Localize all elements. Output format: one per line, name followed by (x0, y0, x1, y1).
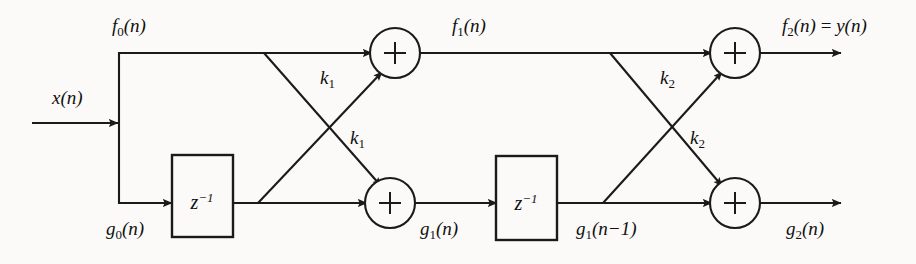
f1-arg: (n) (464, 15, 486, 37)
g2-arg: (n) (802, 218, 824, 240)
g0-arg: (n) (122, 218, 144, 240)
g1d-arg: (n−1) (592, 218, 636, 240)
f2-equals: = (816, 15, 836, 36)
g2-base: g (786, 218, 796, 239)
label-f2-output: f2(n) = y(n) (782, 15, 867, 39)
label-g2: g2(n) (786, 218, 824, 242)
f0-arg: (n) (124, 15, 146, 37)
label-f1: f1(n) (452, 15, 486, 39)
label-g1: g1(n) (420, 218, 458, 242)
delay1-base: z (189, 191, 198, 213)
g1d-base: g (576, 218, 586, 239)
delay2-exponent: −1 (522, 191, 537, 206)
signal-flow-svg: z−1 z−1 x(n) (0, 0, 916, 264)
adder-g1 (365, 178, 415, 228)
adder-g2 (710, 178, 760, 228)
f2-alias-arg: (n) (845, 15, 867, 37)
delay1-exponent: −1 (198, 190, 213, 205)
label-g0: g0(n) (106, 218, 144, 242)
label-k2-upper: k2 (660, 67, 675, 91)
label-k2-lower: k2 (690, 127, 705, 151)
adder-f1 (370, 28, 420, 78)
label-input-x: x(n) (51, 87, 83, 109)
adder-f2 (710, 28, 760, 78)
f2-arg: (n) (794, 15, 816, 37)
g1-base: g (420, 218, 430, 239)
k1u-sub: 1 (328, 76, 335, 91)
input-arg: (n) (60, 87, 82, 109)
label-k1-lower: k1 (350, 127, 365, 151)
delay2-base: z (513, 192, 522, 214)
k2u-sub: 2 (668, 76, 675, 91)
g1-arg: (n) (436, 218, 458, 240)
f2-alias-base: y (834, 15, 845, 36)
k2l-sub: 2 (698, 136, 705, 151)
lattice-filter-diagram: z−1 z−1 x(n) (0, 0, 916, 264)
label-g1-delayed: g1(n−1) (576, 218, 636, 242)
label-k1-upper: k1 (320, 67, 335, 91)
k1l-sub: 1 (358, 136, 365, 151)
g0-base: g (106, 218, 116, 239)
label-f0: f0(n) (112, 15, 146, 39)
